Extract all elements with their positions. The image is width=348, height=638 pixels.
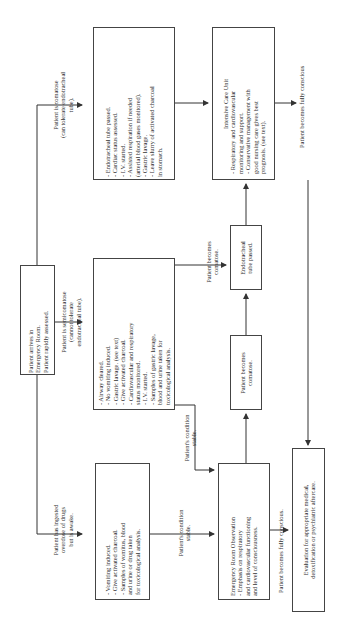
box-comatose-steps: - Endotracheal tube passed. - Cardiac st… — [93, 27, 175, 180]
box-icu: Intensive Care Unit - Respiratory and ca… — [212, 27, 275, 180]
box-evaluation: Evaluation for appropriate medical, deto… — [292, 448, 325, 612]
start-line: Patient rapidly assessed. — [41, 267, 48, 373]
start-box: Patient arrives in Emergency Room. Patie… — [20, 265, 55, 375]
edge-label-condition-stable-1: Patient's condition stable. — [178, 405, 202, 471]
edge-label-fully-conscious-er: Patient becomes fully conscious. — [275, 470, 287, 595]
label-semicomatose: Patient is semicomatose (cannot tolerate… — [56, 282, 86, 362]
box-endotracheal: Endotracheal tube passed. — [230, 225, 262, 290]
start-line: Emergency Room. — [34, 267, 41, 373]
start-line: Patient arrives in — [26, 267, 33, 373]
label-awake: Patient has ingested overdose of drugs b… — [48, 495, 78, 565]
edge-label-fully-conscious-icu: Patient becomes fully conscious — [296, 25, 308, 150]
edge-label-becomes-comatose: Patient becomes comatose. — [198, 232, 226, 292]
label-comatose: Patient is comatose (can tolerate endotr… — [48, 70, 78, 140]
edge-label-condition-stable-2: Patient's condition stable. — [172, 498, 196, 568]
box-awake-steps: - Vomiting induced. - Give activated cha… — [95, 463, 150, 600]
box-er-observation: Emergency Room Observation - Emphasis on… — [218, 463, 270, 600]
box-becomes-comatose: Patient becomes comatose. — [230, 335, 262, 410]
box-semicomatose-steps: - Airway cleared. - No vomiting induced.… — [93, 258, 175, 410]
